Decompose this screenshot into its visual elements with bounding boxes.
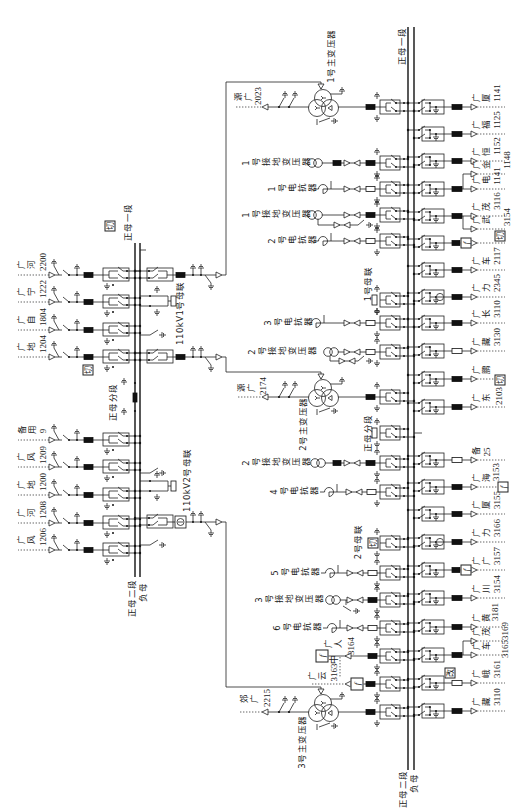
equipment-label: 2号电抗器 xyxy=(267,236,318,246)
kv110-feeder-name: 广地 xyxy=(17,343,37,353)
f-tag: f xyxy=(461,238,472,249)
feeder-name: 广力 xyxy=(472,284,492,294)
main-transformer-label: 1号主变压器 xyxy=(326,29,336,82)
kv110-section-label: 正母分段 xyxy=(108,383,118,421)
feeder-name: 广海 xyxy=(472,474,492,484)
kv110-feeder-name: 广风 xyxy=(17,453,37,463)
kv110-bus-bottom-main-label: 正母二段 xyxy=(127,579,137,617)
kv110-feeder-number: 1204 xyxy=(38,335,48,353)
feeder-number: 3166 xyxy=(492,519,502,537)
kv110-feeder-number: 1222 xyxy=(38,280,48,298)
equipment-label: 3号接地变压器 xyxy=(254,595,325,605)
cut-tag: 切 xyxy=(83,365,94,376)
feeder-name: 广鹏 xyxy=(472,366,492,376)
feeder-number: 3153 xyxy=(491,463,501,481)
feeder-number: 31653169 xyxy=(500,622,510,658)
kv10-section-label: 正母分段 xyxy=(363,414,373,452)
diagram-canvas: 正母一段 正母二段 负母 正母分段 1号母联 2号母联 广厦 1141 广福 1… xyxy=(0,0,526,809)
kv110-feeder-number: 1209 xyxy=(38,446,48,464)
feeder-name: 广车 xyxy=(472,642,492,652)
equipment-label: 3号电抗器 xyxy=(263,318,314,328)
f-tag: f xyxy=(351,678,364,691)
local-feeder-number: 3163中 xyxy=(329,655,339,682)
feeder-name: 广藏 xyxy=(472,338,492,348)
kv110-feeder-number: 2200 xyxy=(38,253,48,271)
local-feeder-number: 3164 xyxy=(346,637,356,655)
cut-tag: 切 xyxy=(368,538,379,549)
feeder-name: 广峨 xyxy=(472,670,492,680)
feeder-number: 1152 xyxy=(492,137,502,155)
main-transformer-1 xyxy=(226,82,380,275)
f-tag: f xyxy=(316,650,329,663)
kv110-feeder-number: 1200 xyxy=(38,473,48,491)
equipment-label: 2号接地变压器 xyxy=(247,347,318,357)
equipment-label: 1号接地变压器 xyxy=(241,158,312,168)
feeder-number: 3161 xyxy=(492,660,502,678)
feeder-name: 广黄 xyxy=(472,614,492,624)
feeder-name: 广厦 xyxy=(472,94,492,104)
feeder-name: 广藏 xyxy=(472,698,492,708)
feeder-number: 2103 xyxy=(494,387,504,405)
source-name: 源广 xyxy=(234,93,254,103)
feeder-number: 3116 xyxy=(492,192,502,210)
feeder-number: 1148 xyxy=(502,151,512,169)
feeder-name: 广东 xyxy=(472,394,492,404)
source-number: 2023 xyxy=(253,87,263,105)
source-number: 2215 xyxy=(262,689,272,707)
feeder-number: 3154 xyxy=(502,208,512,226)
feeder-number: 25 xyxy=(482,448,492,457)
feeder-number: 3155 xyxy=(492,491,502,509)
kv110-coupler-1-label: 110kV1号母联 xyxy=(175,281,185,345)
local-feeder-name: 广云 xyxy=(308,672,328,682)
feeder-number: 3110 xyxy=(492,688,502,706)
main-transformer-label: 2号主变压器 xyxy=(298,397,308,450)
equipment-label: 2号接地变压器 xyxy=(241,458,312,468)
main-transformer-label: 3号主变压器 xyxy=(297,715,307,768)
feeder-name: 广武 xyxy=(472,216,492,226)
kv110-feeder-name: 广河 xyxy=(17,261,37,271)
equipment-label: 4号电抗器 xyxy=(269,487,320,497)
feeder-name: 广广 xyxy=(472,557,492,567)
kv110-bus-top-label: 正母一段 xyxy=(123,203,133,241)
kv110-bus xyxy=(121,243,146,577)
source-number: 2174 xyxy=(258,377,268,395)
kv110-feeder-number: 9 xyxy=(38,429,48,434)
feeder-number: 2117 xyxy=(492,247,502,265)
kv10-coupler-1-label: 1号母联 xyxy=(363,267,373,301)
kv10-left-cabinets xyxy=(372,93,415,726)
source-name: 郊广 xyxy=(240,695,260,705)
kv110-feeder-name: 广风 xyxy=(17,536,37,546)
feeder-name: 广长 xyxy=(472,310,492,320)
feeder-name: 广车 xyxy=(472,257,492,267)
feeder-name: 广电 xyxy=(472,176,492,186)
feeder-number: 3157 xyxy=(492,547,502,565)
kv110-feeder-name: 广河 xyxy=(17,509,37,519)
equipment-label: 1号接地变压器 xyxy=(241,210,312,220)
kv110-feeder-number: 1208 xyxy=(38,501,48,519)
feeder-number: 2345 xyxy=(492,274,502,292)
kv110-feeder-name: 广地 xyxy=(17,481,37,491)
feeder-name: 广茂 xyxy=(472,628,492,638)
feeder-number: 1141 xyxy=(492,167,502,185)
feeder-name: 备 xyxy=(472,447,482,457)
feeder-name: 广茂 xyxy=(472,203,492,213)
equipment-label: 1号电抗器 xyxy=(267,184,318,194)
feeder-name: 广恒 xyxy=(472,148,492,158)
change-tag: 改 xyxy=(445,668,456,679)
kv110-feeder-name: 备用 xyxy=(18,426,38,436)
feeder-number: 3181 xyxy=(490,603,500,621)
feeder-name: 广福 xyxy=(472,121,492,131)
kv10-coupler-2-label: 2号母联 xyxy=(353,525,363,559)
f-tag: f xyxy=(498,482,509,493)
feeder-number: 3130 xyxy=(492,328,502,346)
feeder-name: 广金 xyxy=(472,161,492,171)
kv10-feeders xyxy=(407,99,505,718)
kv110-feeder-number: 1804 xyxy=(38,308,48,326)
single-line-diagram xyxy=(0,0,526,809)
cut-tag: 切 xyxy=(495,231,506,242)
equipment-label: 6号电抗器 xyxy=(272,623,323,633)
feeder-name: 广厦 xyxy=(472,501,492,511)
source-name: 源广 xyxy=(237,384,257,394)
feeder-name: 广川 xyxy=(472,585,492,595)
cut-tag: 切 xyxy=(105,221,116,232)
